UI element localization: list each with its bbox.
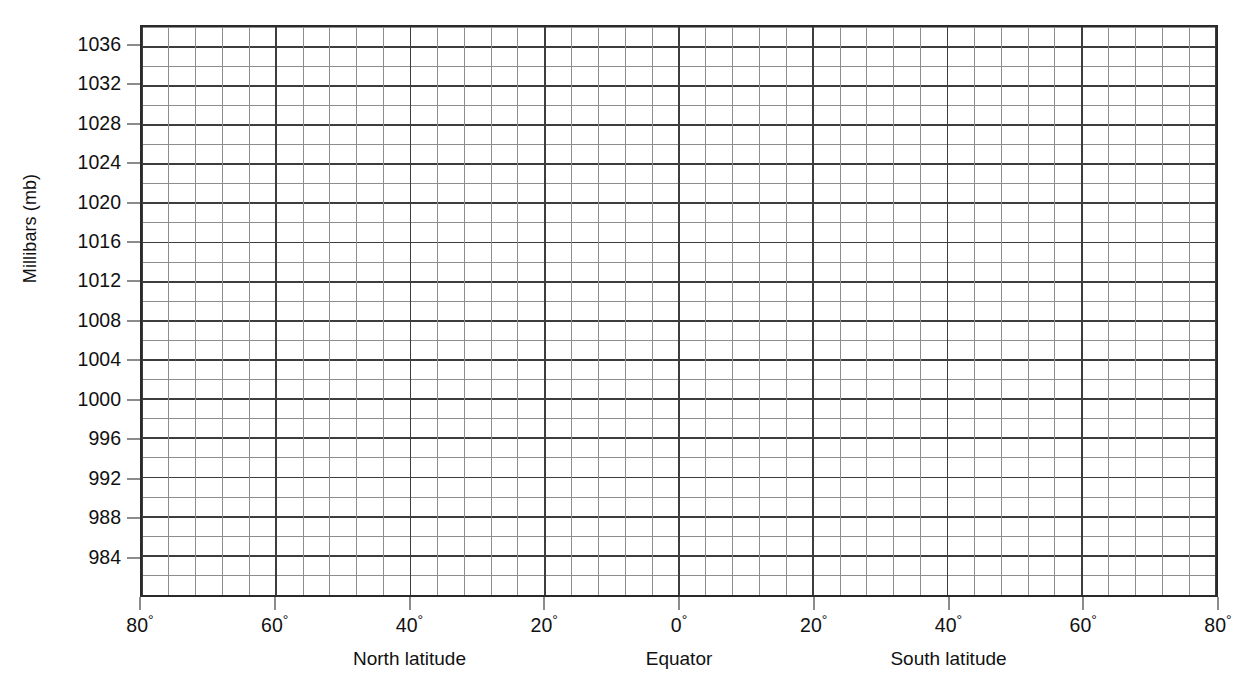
x-tick-mark: [813, 597, 814, 610]
y-tick-label: 1028: [78, 114, 121, 134]
y-tick-mark: [127, 360, 140, 361]
x-tick-label: 60°: [1070, 613, 1097, 636]
y-axis-ticks: 1036103210281024102010161012100810041000…: [0, 0, 140, 686]
y-tick-label: 1004: [78, 351, 121, 371]
plot-area: [140, 25, 1218, 597]
x-tick-label: 80°: [1204, 613, 1231, 636]
y-tick-mark: [127, 123, 140, 124]
x-tick-label: 0°: [671, 613, 687, 636]
y-tick-mark: [127, 478, 140, 479]
y-tick-mark: [127, 202, 140, 203]
y-tick-label: 984: [88, 548, 121, 568]
y-tick-mark: [127, 557, 140, 558]
grid: [142, 27, 1216, 595]
y-tick-label: 1000: [78, 390, 121, 410]
x-tick-mark: [1218, 597, 1219, 610]
y-tick-mark: [127, 241, 140, 242]
x-caption-north-latitude: North latitude: [353, 649, 466, 668]
x-tick-mark: [948, 597, 949, 610]
y-tick-mark: [127, 399, 140, 400]
x-tick-mark: [274, 597, 275, 610]
y-tick-label: 1012: [78, 272, 121, 292]
x-axis-captions: North latitudeEquatorSouth latitude: [0, 649, 1247, 686]
y-tick-mark: [127, 44, 140, 45]
y-tick-label: 1036: [78, 35, 121, 55]
x-tick-mark: [1083, 597, 1084, 610]
y-tick-label: 1020: [78, 193, 121, 213]
x-caption-south-latitude: South latitude: [890, 649, 1006, 668]
x-tick-label: 20°: [531, 613, 558, 636]
y-tick-mark: [127, 281, 140, 282]
x-tick-label: 80°: [126, 613, 153, 636]
x-tick-mark: [409, 597, 410, 610]
y-tick-label: 992: [88, 469, 121, 489]
y-tick-label: 988: [88, 508, 121, 528]
y-tick-label: 996: [88, 429, 121, 449]
y-tick-label: 1024: [78, 153, 121, 173]
y-tick-mark: [127, 163, 140, 164]
x-tick-mark: [140, 597, 141, 610]
y-tick-mark: [127, 439, 140, 440]
x-tick-label: 60°: [261, 613, 288, 636]
x-tick-label: 40°: [396, 613, 423, 636]
y-tick-label: 1032: [78, 74, 121, 94]
y-tick-mark: [127, 320, 140, 321]
pressure-vs-latitude-chart: Millibars (mb) 1036103210281024102010161…: [0, 0, 1247, 686]
x-tick-mark: [679, 597, 680, 610]
x-tick-mark: [544, 597, 545, 610]
y-tick-label: 1016: [78, 232, 121, 252]
x-caption-equator: Equator: [646, 649, 713, 668]
y-tick-label: 1008: [78, 311, 121, 331]
x-tick-label: 40°: [935, 613, 962, 636]
y-tick-mark: [127, 84, 140, 85]
y-tick-mark: [127, 518, 140, 519]
x-tick-label: 20°: [800, 613, 827, 636]
